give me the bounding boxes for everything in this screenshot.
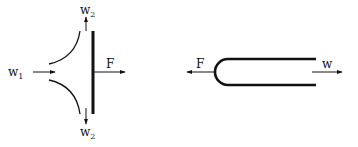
force-label-right-fig: F [196, 57, 204, 71]
inflow-label: w1 [8, 65, 23, 81]
upper-stream-curve [49, 31, 80, 64]
flow-label-right-fig: w [322, 57, 333, 71]
lower-stream-curve [49, 80, 80, 114]
u-bend-figure: F w [187, 57, 342, 85]
u-bend-pipe [215, 59, 316, 85]
diagram-canvas: w1 F w2 w2 F w [0, 0, 358, 147]
outflow-top-label: w2 [80, 3, 95, 19]
jet-plate-figure: w1 F w2 w2 [8, 3, 125, 141]
outflow-bottom-label: w2 [80, 125, 95, 141]
force-label-left-fig: F [106, 57, 114, 71]
